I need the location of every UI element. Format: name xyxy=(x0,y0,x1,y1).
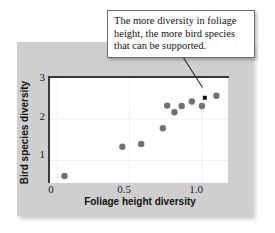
axis-top-rule xyxy=(50,76,229,78)
y-tick-label-2: 2 xyxy=(31,110,45,122)
data-point-highlighted xyxy=(203,96,207,100)
data-point xyxy=(213,93,219,99)
y-tick-label-3: 3 xyxy=(31,71,45,83)
data-point xyxy=(199,103,205,109)
data-point xyxy=(189,98,195,104)
data-point xyxy=(164,102,170,108)
callout-box: The more diversity in foliage height, th… xyxy=(107,10,255,58)
y-tick-label-1: 1 xyxy=(31,148,45,160)
x-axis-title: Foliage height diversity xyxy=(52,196,228,207)
data-point xyxy=(61,173,67,179)
x-tick-label-0-5: 0.5 xyxy=(111,183,137,195)
data-point xyxy=(138,141,144,147)
scatter-plot xyxy=(50,78,228,183)
plot-area xyxy=(50,78,228,183)
figure-container: 3 2 1 0 0.5 1.0 Foliage height diversity… xyxy=(0,0,275,233)
y-axis-title: Bird species diversity xyxy=(19,73,30,193)
x-tick-label-1-0: 1.0 xyxy=(183,183,209,195)
callout-text: The more diversity in foliage height, th… xyxy=(114,15,249,53)
data-point xyxy=(178,103,184,109)
x-tick-label-0: 0 xyxy=(38,183,64,195)
data-point xyxy=(171,109,177,115)
data-point xyxy=(160,125,166,131)
data-point xyxy=(119,144,125,150)
axis-left-rule xyxy=(48,76,50,183)
